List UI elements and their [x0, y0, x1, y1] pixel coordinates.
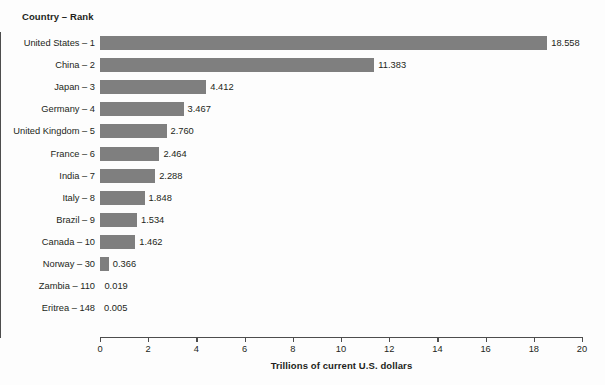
- bar-value-label: 2.464: [159, 143, 186, 165]
- bar-category-label: United Kingdom – 5: [13, 120, 95, 142]
- bar-category-label: United States – 1: [24, 32, 95, 54]
- bar-value-label: 2.760: [167, 120, 194, 142]
- plot-area: United States – 118.558China – 211.383Ja…: [100, 32, 582, 337]
- bar-row: Brazil – 91.534: [100, 209, 582, 231]
- bar-row: United Kingdom – 52.760: [100, 120, 582, 142]
- x-axis-tick-label: 14: [422, 344, 452, 354]
- x-axis-tick: [293, 337, 294, 342]
- bar: [100, 147, 159, 161]
- bar: [100, 102, 184, 116]
- bar: [100, 124, 167, 138]
- x-axis-tick-label: 18: [519, 344, 549, 354]
- x-axis-tick-label: 0: [85, 344, 115, 354]
- bar-row: Italy – 81.848: [100, 187, 582, 209]
- bar-value-label: 11.383: [374, 54, 406, 76]
- x-axis-tick: [534, 337, 535, 342]
- bar-value-label: 1.848: [145, 187, 172, 209]
- bar-row: France – 62.464: [100, 143, 582, 165]
- x-axis-tick-label: 2: [133, 344, 163, 354]
- bar-value-label: 3.467: [184, 98, 211, 120]
- bar-category-label: Canada – 10: [42, 231, 95, 253]
- bar: [100, 36, 547, 50]
- bar-category-label: Norway – 30: [43, 253, 95, 275]
- bar-value-label: 18.558: [547, 32, 579, 54]
- bar: [100, 235, 135, 249]
- x-axis-tick: [196, 337, 197, 342]
- bar-category-label: China – 2: [55, 54, 95, 76]
- bar-chart: Country – Rank United States – 118.558Ch…: [0, 0, 605, 385]
- y-axis-line: [0, 32, 1, 338]
- bar: [100, 213, 137, 227]
- bar-row: Japan – 34.412: [100, 76, 582, 98]
- bar-category-label: Brazil – 9: [56, 209, 95, 231]
- x-axis-tick: [437, 337, 438, 342]
- bar-category-label: India – 7: [59, 165, 95, 187]
- bar-row: Eritrea – 1480.005: [100, 297, 582, 319]
- bar-row: Norway – 300.366: [100, 253, 582, 275]
- category-axis-title: Country – Rank: [22, 11, 94, 22]
- bar-value-label: 4.412: [206, 76, 233, 98]
- x-axis-tick-label: 16: [471, 344, 501, 354]
- bar: [100, 257, 109, 271]
- bar: [100, 169, 155, 183]
- bar-value-label: 2.288: [155, 165, 182, 187]
- x-axis-tick-label: 6: [230, 344, 260, 354]
- x-axis-tick: [245, 337, 246, 342]
- x-axis-tick-label: 8: [278, 344, 308, 354]
- bar-category-label: France – 6: [51, 143, 95, 165]
- value-axis-title: Trillions of current U.S. dollars: [100, 360, 583, 371]
- bar-value-label: 0.366: [109, 253, 136, 275]
- bar-value-label: 1.534: [137, 209, 164, 231]
- x-axis-tick-label: 4: [181, 344, 211, 354]
- bar-category-label: Italy – 8: [62, 187, 95, 209]
- bar-row: United States – 118.558: [100, 32, 582, 54]
- bar-row: Zambia – 1100.019: [100, 275, 582, 297]
- bar: [100, 80, 206, 94]
- bar-category-label: Eritrea – 148: [42, 297, 95, 319]
- bar: [100, 58, 374, 72]
- bar-category-label: Zambia – 110: [39, 275, 95, 297]
- bar-category-label: Germany – 4: [41, 98, 95, 120]
- bar-category-label: Japan – 3: [54, 76, 95, 98]
- x-axis-tick: [100, 337, 101, 342]
- bar-row: India – 72.288: [100, 165, 582, 187]
- x-axis-tick: [389, 337, 390, 342]
- x-axis-tick: [148, 337, 149, 342]
- x-axis-tick: [582, 337, 583, 342]
- x-axis-tick: [486, 337, 487, 342]
- x-axis-tick-label: 12: [374, 344, 404, 354]
- bar-value-label: 0.005: [100, 297, 127, 319]
- x-axis-tick-label: 20: [567, 344, 597, 354]
- x-axis-tick: [341, 337, 342, 342]
- bar: [100, 191, 145, 205]
- bar-value-label: 0.019: [100, 275, 127, 297]
- bar-row: China – 211.383: [100, 54, 582, 76]
- bar-row: Germany – 43.467: [100, 98, 582, 120]
- bar-row: Canada – 101.462: [100, 231, 582, 253]
- bar-value-label: 1.462: [135, 231, 162, 253]
- x-axis-tick-label: 10: [326, 344, 356, 354]
